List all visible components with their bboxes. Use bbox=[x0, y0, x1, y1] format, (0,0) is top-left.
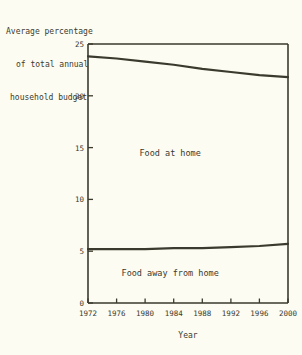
plot-frame bbox=[88, 44, 288, 303]
x-tick-label-1992: 1992 bbox=[222, 309, 240, 318]
x-tick-label-1976: 1976 bbox=[108, 309, 127, 318]
chart-container: Average percentage of total annual house… bbox=[0, 0, 302, 355]
series-annotation-food-at-home: Food at home bbox=[139, 148, 200, 158]
y-tick-label-10: 10 bbox=[75, 195, 85, 204]
y-tick-label-15: 15 bbox=[75, 144, 84, 153]
y-axis-title-line-3: household budget bbox=[6, 92, 93, 103]
x-tick-labels: 1972 1976 1980 1984 1988 1992 1996 2000 bbox=[79, 309, 298, 318]
x-axis-title: Year bbox=[178, 331, 197, 340]
y-axis-title-line-1: Average percentage bbox=[6, 26, 93, 37]
x-tick-label-1996: 1996 bbox=[250, 309, 269, 318]
series-line-food-away-from-home bbox=[88, 244, 288, 249]
x-tick-label-1984: 1984 bbox=[165, 309, 184, 318]
y-axis-title-line-2: of total annual bbox=[6, 59, 93, 70]
y-tick-label-0: 0 bbox=[79, 299, 84, 308]
series-line-food-at-home bbox=[88, 56, 288, 77]
series-annotation-food-away-from-home: Food away from home bbox=[122, 268, 219, 278]
x-tick-label-2000: 2000 bbox=[279, 309, 298, 318]
x-tick-label-1980: 1980 bbox=[136, 309, 155, 318]
y-tick-label-5: 5 bbox=[79, 247, 84, 256]
x-tick-label-1988: 1988 bbox=[193, 309, 212, 318]
x-tick-label-1972: 1972 bbox=[79, 309, 97, 318]
y-axis-title: Average percentage of total annual house… bbox=[6, 4, 93, 125]
